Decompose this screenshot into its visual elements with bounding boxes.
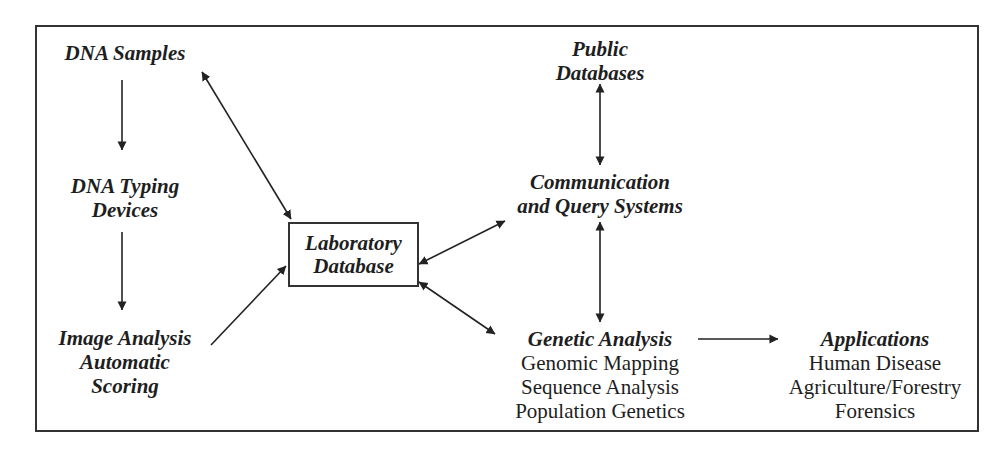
arrow-samples-labdb [202, 72, 291, 219]
genetic-analysis-item: Genomic Mapping [500, 351, 700, 375]
applications-item: Forensics [775, 399, 975, 423]
public-db-line1: Public [530, 37, 670, 61]
node-applications: Applications Human Disease Agriculture/F… [775, 327, 975, 423]
image-analysis-line1: Image Analysis [40, 326, 210, 350]
genetic-analysis-title: Genetic Analysis [500, 327, 700, 351]
comm-query-line2: and Query Systems [500, 194, 700, 218]
node-genetic-analysis: Genetic Analysis Genomic Mapping Sequenc… [500, 327, 700, 423]
arrow-labdb-comm [419, 221, 505, 264]
genetic-analysis-item: Population Genetics [500, 399, 700, 423]
image-analysis-line2: Automatic [40, 350, 210, 374]
node-public-databases: Public Databases [530, 37, 670, 85]
comm-query-line1: Communication [500, 170, 700, 194]
public-db-line2: Databases [530, 61, 670, 85]
arrow-image-to-labdb [211, 266, 286, 345]
node-dna-typing-devices: DNA Typing Devices [50, 174, 200, 222]
node-laboratory-database: Laboratory Database [288, 222, 419, 287]
arrow-labdb-genetic [419, 282, 495, 334]
genetic-analysis-item: Sequence Analysis [500, 375, 700, 399]
applications-item: Agriculture/Forestry [775, 375, 975, 399]
node-image-analysis: Image Analysis Automatic Scoring [40, 326, 210, 398]
lab-db-line2: Database [313, 255, 394, 278]
lab-db-line1: Laboratory [305, 232, 402, 255]
image-analysis-line3: Scoring [40, 374, 210, 398]
dna-samples-title: DNA Samples [50, 41, 200, 65]
node-communication-query: Communication and Query Systems [500, 170, 700, 218]
dna-typing-line1: DNA Typing [50, 174, 200, 198]
applications-item: Human Disease [775, 351, 975, 375]
dna-typing-line2: Devices [50, 198, 200, 222]
applications-title: Applications [775, 327, 975, 351]
node-dna-samples: DNA Samples [50, 41, 200, 65]
